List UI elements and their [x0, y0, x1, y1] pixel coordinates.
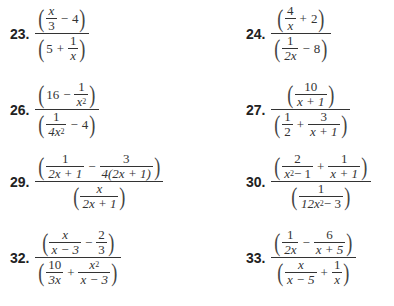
complex-fraction: ( 2x2 − 1 + 1x + 1 ) ( 112x2 − 3 ): [271, 152, 370, 211]
problem-26: 26. ( 16− 1x2 ) ( 14x2 −4 ): [10, 80, 99, 139]
complex-fraction: ( 4x +2 ) ( 12x −8 ): [271, 4, 330, 63]
problem-33: 33. ( 12x − 6x + 5 ) ( xx − 5 + 1x ): [246, 228, 356, 287]
complex-fraction: ( 12x + 1 − 34(2x + 1) ) ( x2x + 1 ): [35, 152, 163, 211]
problem-23: 23. ( x3 −4 ) ( 5+ 1x ): [10, 4, 89, 63]
complex-fraction: ( 16− 1x2 ) ( 14x2 −4 ): [35, 80, 98, 139]
complex-fraction: ( xx − 3 − 23 ) ( 103x + x2x − 3 ): [35, 228, 120, 287]
problem-label: 27.: [246, 102, 265, 118]
problem-label: 30.: [246, 174, 265, 190]
problem-24: 24. ( 4x +2 ) ( 12x −8 ): [246, 4, 331, 63]
problem-32: 32. ( xx − 3 − 23 ) ( 103x + x2x − 3 ): [10, 228, 121, 287]
problem-label: 24.: [246, 26, 265, 42]
complex-fraction: ( 12x − 6x + 5 ) ( xx − 5 + 1x ): [271, 228, 356, 287]
problem-30: 30. ( 2x2 − 1 + 1x + 1 ) ( 112x2 − 3 ): [246, 152, 371, 211]
problem-27: 27. ( 10x + 1 ) ( 12 + 3x + 1 ): [246, 80, 350, 139]
problem-label: 33.: [246, 250, 265, 266]
complex-fraction: ( x3 −4 ) ( 5+ 1x ): [35, 4, 89, 63]
problem-label: 23.: [10, 26, 29, 42]
problem-label: 32.: [10, 250, 29, 266]
problem-label: 26.: [10, 102, 29, 118]
problem-label: 29.: [10, 174, 29, 190]
problem-29: 29. ( 12x + 1 − 34(2x + 1) ) ( x2x + 1 ): [10, 152, 163, 211]
complex-fraction: ( 10x + 1 ) ( 12 + 3x + 1 ): [271, 80, 350, 139]
